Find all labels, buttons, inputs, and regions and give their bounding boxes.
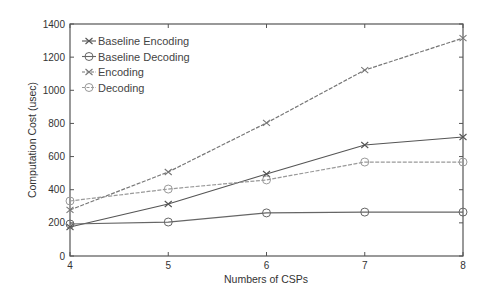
legend-item: Decoding: [82, 82, 144, 94]
y-tick-label: 1000: [43, 85, 66, 96]
y-tick-label: 800: [48, 118, 65, 129]
legend-item: Baseline Encoding: [82, 35, 189, 47]
x-tick-label: 6: [264, 260, 270, 271]
legend-label: Encoding: [98, 66, 144, 78]
legend: Baseline EncodingBaseline DecodingEncodi…: [82, 35, 190, 94]
legend-label: Decoding: [98, 82, 144, 94]
series-baseline-encoding: [67, 134, 467, 230]
series-lines: [66, 35, 467, 230]
x-tick-label: 5: [165, 260, 171, 271]
line-chart: 0200400600800100012001400 45678 Baseline…: [0, 0, 493, 302]
x-marker-icon: [361, 67, 368, 73]
y-axis-title: Computation Cost (usec): [26, 82, 38, 198]
x-tick-label: 7: [362, 260, 368, 271]
series-decoding: [66, 158, 467, 205]
y-tick-label: 1200: [43, 52, 66, 63]
y-tick-label: 600: [48, 151, 65, 162]
legend-item: Encoding: [82, 66, 144, 78]
x-tick-label: 8: [460, 260, 466, 271]
x-marker-icon: [165, 169, 172, 175]
y-tick-label: 400: [48, 184, 65, 195]
legend-label: Baseline Decoding: [98, 51, 190, 63]
series-line: [70, 212, 463, 224]
x-marker-icon: [263, 120, 270, 126]
x-axis-title: Numbers of CSPs: [224, 273, 308, 285]
y-tick-label: 0: [59, 251, 65, 262]
x-tick-label: 4: [67, 260, 73, 271]
series-baseline-decoding: [66, 208, 467, 228]
legend-label: Baseline Encoding: [98, 35, 189, 47]
y-tick-label: 200: [48, 217, 65, 228]
series-line: [70, 162, 463, 201]
legend-item: Baseline Decoding: [82, 51, 190, 63]
y-tick-label: 1400: [43, 19, 66, 30]
